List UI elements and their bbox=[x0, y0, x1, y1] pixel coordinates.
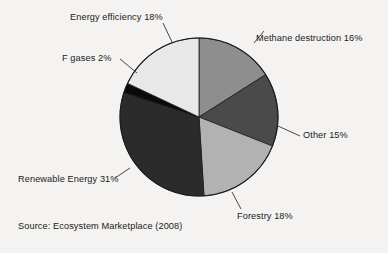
source-note: Source: Ecosystem Marketplace (2008) bbox=[18, 222, 182, 231]
slice-label-f-gases: F gases 2% bbox=[62, 54, 112, 63]
pie-slices-group bbox=[120, 38, 278, 196]
leader-line-f-gases bbox=[120, 59, 137, 73]
leader-line-forestry bbox=[232, 192, 241, 209]
slice-label-energy-efficiency: Energy efficiency 18% bbox=[70, 13, 163, 22]
slice-label-methane-destruction: Methane destruction 16% bbox=[256, 34, 363, 43]
leader-line-energy-efficiency bbox=[163, 23, 172, 42]
slice-label-forestry: Forestry 18% bbox=[237, 212, 293, 221]
pie-chart-figure: Energy efficiency 18% Methane destructio… bbox=[0, 0, 388, 253]
slice-label-other: Other 15% bbox=[303, 131, 348, 140]
leader-line-other bbox=[278, 126, 300, 136]
slice-label-renewable-energy: Renewable Energy 31% bbox=[18, 175, 119, 184]
